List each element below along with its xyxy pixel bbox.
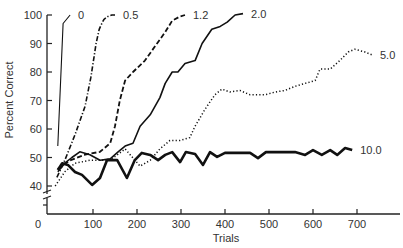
- series-line-1-2: [58, 15, 185, 169]
- series-label-0: 0: [78, 9, 84, 21]
- x-tick-label: 200: [128, 218, 146, 230]
- series-labels: 00.51.22.05.010.0: [78, 8, 395, 157]
- series-label-1-2: 1.2: [193, 9, 208, 21]
- y-tick-label: 100: [24, 9, 42, 21]
- series-line-10-0: [58, 148, 352, 185]
- y-tick-label: 50: [30, 152, 42, 164]
- x-tick-label: 600: [304, 218, 322, 230]
- y-tick-label: 90: [30, 38, 42, 50]
- series-line-2-0: [58, 14, 243, 172]
- y-axis-title: Percent Correct: [3, 61, 15, 138]
- chart-plot-area: 4050607080901000100200300400500600700 00…: [0, 0, 403, 248]
- y-tick-label: 70: [30, 95, 42, 107]
- y-tick-label: 60: [30, 123, 42, 135]
- y-tick-label: 40: [30, 180, 42, 192]
- series-label-10-0: 10.0: [360, 144, 381, 156]
- x-axis-title: Trials: [213, 232, 240, 244]
- series-line-5-0: [55, 49, 372, 186]
- series-label-0-5: 0.5: [123, 9, 138, 21]
- x-tick-label: 400: [216, 218, 234, 230]
- series-line-0: [58, 15, 70, 146]
- x-tick-label: 500: [260, 218, 278, 230]
- x-tick-label: 100: [84, 218, 102, 230]
- series-layer: [55, 14, 372, 186]
- learning-curve-chart: 4050607080901000100200300400500600700 00…: [0, 0, 403, 248]
- series-label-2-0: 2.0: [251, 8, 266, 20]
- x-tick-label: 700: [348, 218, 366, 230]
- x-tick-label: 0: [35, 218, 41, 230]
- y-tick-label: 80: [30, 66, 42, 78]
- x-tick-label: 300: [172, 218, 190, 230]
- series-label-5-0: 5.0: [380, 49, 395, 61]
